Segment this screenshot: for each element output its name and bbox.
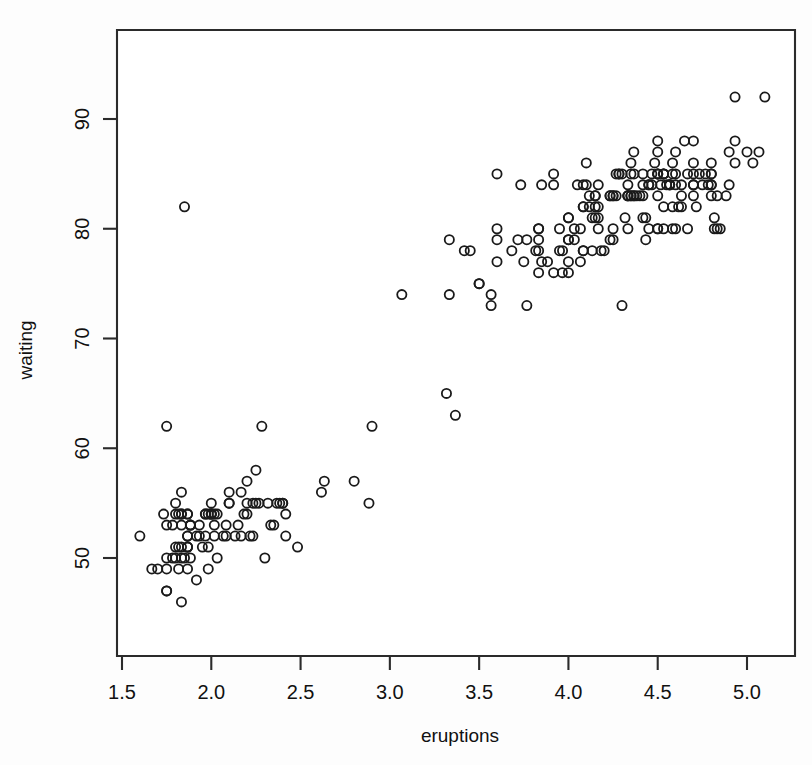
x-axis-title: eruptions: [421, 725, 499, 746]
x-tick-label: 3.0: [376, 681, 404, 703]
x-tick-label: 5.0: [733, 681, 761, 703]
y-tick-label: 50: [71, 547, 93, 569]
x-axis-tick-labels: 1.52.02.53.03.54.04.55.0: [108, 681, 761, 703]
x-tick-label: 4.0: [555, 681, 583, 703]
x-tick-label: 2.0: [197, 681, 225, 703]
y-tick-label: 60: [71, 437, 93, 459]
y-axis-ticks: [103, 119, 117, 558]
x-tick-label: 1.5: [108, 681, 136, 703]
y-tick-label: 70: [71, 327, 93, 349]
y-tick-label: 90: [71, 108, 93, 130]
x-tick-label: 4.5: [644, 681, 672, 703]
x-tick-label: 3.5: [465, 681, 493, 703]
plot-canvas: 1.52.02.53.03.54.04.55.0 5060708090 erup…: [0, 0, 812, 765]
y-axis-tick-labels: 5060708090: [71, 108, 93, 569]
y-tick-label: 80: [71, 218, 93, 240]
x-tick-label: 2.5: [287, 681, 315, 703]
scatter-plot-figure: 1.52.02.53.03.54.04.55.0 5060708090 erup…: [0, 0, 812, 765]
x-axis-ticks: [122, 656, 747, 670]
y-axis-title: waiting: [15, 320, 36, 380]
